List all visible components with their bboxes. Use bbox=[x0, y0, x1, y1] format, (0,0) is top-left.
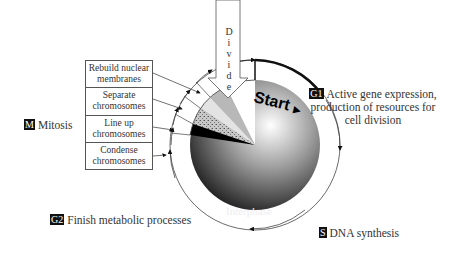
divide-label: D i v i d e bbox=[222, 26, 236, 92]
mitosis-step-condense: Condensechromosomes bbox=[85, 142, 153, 170]
phase-g1-label: G1Active gene expression, production of … bbox=[303, 88, 443, 127]
phase-tag-m: M bbox=[24, 119, 35, 130]
leader-condense bbox=[153, 155, 166, 156]
interphase-label: Interphase bbox=[226, 205, 272, 218]
phase-s-label: SDNA synthesis bbox=[319, 227, 399, 240]
leader-rebuild bbox=[153, 73, 200, 93]
mitosis-step-lineup: Line upchromosomes bbox=[85, 115, 153, 142]
leader-lineup bbox=[153, 127, 173, 130]
phase-tag-s: S bbox=[319, 227, 327, 238]
mitosis-step-separate: Separatechromosomes bbox=[85, 87, 153, 115]
phase-m-label: MMitosis bbox=[24, 119, 72, 132]
phase-tag-g2: G2 bbox=[50, 214, 64, 225]
mitosis-step-rebuild: Rebuild nuclearmembranes bbox=[85, 60, 153, 87]
phase-g2-label: G2Finish metabolic processes bbox=[50, 214, 191, 227]
phase-tag-g1: G1 bbox=[309, 88, 323, 99]
leader-separate bbox=[153, 99, 182, 109]
